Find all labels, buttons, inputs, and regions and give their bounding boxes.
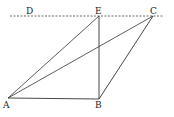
- label-b: B: [95, 100, 102, 110]
- label-e: E: [95, 6, 102, 16]
- segment-bc: [99, 16, 153, 99]
- label-a: A: [2, 100, 10, 110]
- segment-ae: [8, 16, 99, 98]
- geometry-diagram: D E C A B: [0, 0, 174, 117]
- segment-ab: [8, 98, 99, 99]
- label-c: C: [150, 6, 157, 16]
- label-d: D: [26, 6, 33, 16]
- segment-ac: [8, 16, 153, 98]
